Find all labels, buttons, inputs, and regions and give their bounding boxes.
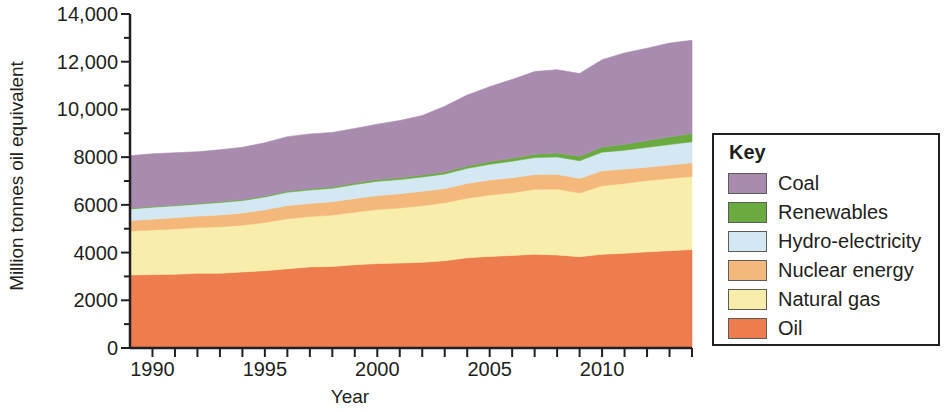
legend-swatch-icon (728, 173, 767, 194)
legend-item-list: CoalRenewablesHydro-electricityNuclear e… (728, 169, 934, 343)
x-tick-label: 2000 (355, 358, 400, 381)
legend-item[interactable]: Hydro-electricity (728, 227, 934, 256)
legend-swatch-icon (728, 260, 767, 281)
legend-item-label: Natural gas (778, 288, 880, 311)
legend-swatch-icon (728, 318, 767, 339)
x-tick-label: 1995 (243, 358, 288, 381)
x-tick-label: 1990 (130, 358, 175, 381)
legend-item-label: Coal (778, 172, 819, 195)
x-axis-title: Year (0, 386, 700, 408)
legend-title: Key (729, 141, 766, 164)
x-tick-label: 2005 (467, 358, 512, 381)
legend-swatch-icon (728, 202, 767, 223)
legend-item[interactable]: Nuclear energy (728, 256, 934, 285)
x-axis-tick-labels: 19901995200020052010 (0, 358, 944, 388)
x-tick-label: 2010 (580, 358, 625, 381)
legend-item[interactable]: Oil (728, 314, 934, 343)
legend-item[interactable]: Renewables (728, 198, 934, 227)
legend-item-label: Hydro-electricity (778, 230, 921, 253)
legend-swatch-icon (728, 289, 767, 310)
legend-item[interactable]: Coal (728, 169, 934, 198)
legend-item-label: Oil (778, 317, 802, 340)
stacked-area-chart: Million tonnes oil equivalent 0200040006… (0, 0, 944, 412)
legend: Key CoalRenewablesHydro-electricityNucle… (712, 133, 940, 346)
legend-item[interactable]: Natural gas (728, 285, 934, 314)
legend-item-label: Nuclear energy (778, 259, 914, 282)
legend-swatch-icon (728, 231, 767, 252)
legend-item-label: Renewables (778, 201, 888, 224)
